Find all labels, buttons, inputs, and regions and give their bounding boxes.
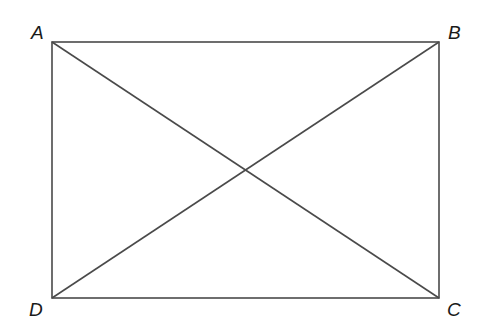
vertex-label-d: D (29, 300, 43, 319)
rectangle-diagram (0, 0, 482, 332)
vertex-label-a: A (31, 23, 44, 42)
vertex-label-b: B (448, 23, 461, 42)
vertex-label-c: C (447, 300, 461, 319)
